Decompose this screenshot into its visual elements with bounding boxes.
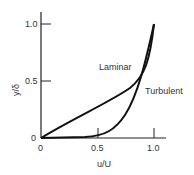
laminar-annotation: Laminar [99,62,132,72]
x-tick-label-05: 0.5 [91,143,104,153]
y-tick-label-05: 0.5 [25,76,38,86]
turbulent-annotation: Turbulent [145,86,183,96]
y-axis-label: y/δ [11,84,21,96]
y-tick-label-1: 1.0 [25,19,38,29]
laminar-curve [41,24,154,138]
x-tick-label-0: 0 [38,143,43,153]
x-axis-label: u/U [97,159,111,169]
y-tick-label-0: 0 [31,133,36,143]
x-tick-label-1: 1.0 [147,143,160,153]
